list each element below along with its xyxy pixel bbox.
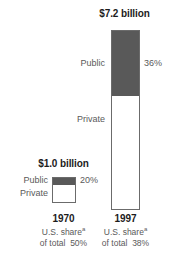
footnote-value-1970: 50% bbox=[70, 238, 87, 248]
footnote-line2-1997: of total bbox=[102, 238, 128, 248]
bar-segment-private-1970 bbox=[53, 185, 75, 202]
percent-label-public-1970: 20% bbox=[80, 175, 98, 185]
segment-label-public-1970: Public bbox=[0, 175, 48, 185]
footnote-marker-1970: a bbox=[82, 226, 85, 232]
footnote-1970: U.S. sharea of total 50% bbox=[25, 227, 102, 249]
chart-figure: $7.2 billion Public 36% Private 1997 U.S… bbox=[0, 0, 171, 262]
segment-label-private-1970: Private bbox=[0, 188, 48, 198]
footnote-line1-1997: U.S. share bbox=[104, 227, 144, 237]
footnote-line1-1970: U.S. share bbox=[42, 227, 82, 237]
footnote-marker-1997: a bbox=[144, 226, 147, 232]
footnote-value-1997: 38% bbox=[132, 238, 149, 248]
year-label-1970: 1970 bbox=[27, 213, 100, 224]
footnote-line2-1970: of total bbox=[40, 238, 66, 248]
bar-segment-private-1997 bbox=[112, 96, 139, 209]
bar-segment-public-1997 bbox=[112, 31, 139, 97]
bar-1997 bbox=[111, 30, 140, 210]
percent-label-public-1997: 36% bbox=[144, 58, 162, 68]
segment-label-private-1997: Private bbox=[49, 114, 105, 124]
bar-1970 bbox=[52, 177, 76, 203]
total-label-1970: $1.0 billion bbox=[17, 158, 110, 169]
total-label-1997: $7.2 billion bbox=[78, 8, 171, 19]
segment-label-public-1997: Public bbox=[49, 58, 105, 68]
